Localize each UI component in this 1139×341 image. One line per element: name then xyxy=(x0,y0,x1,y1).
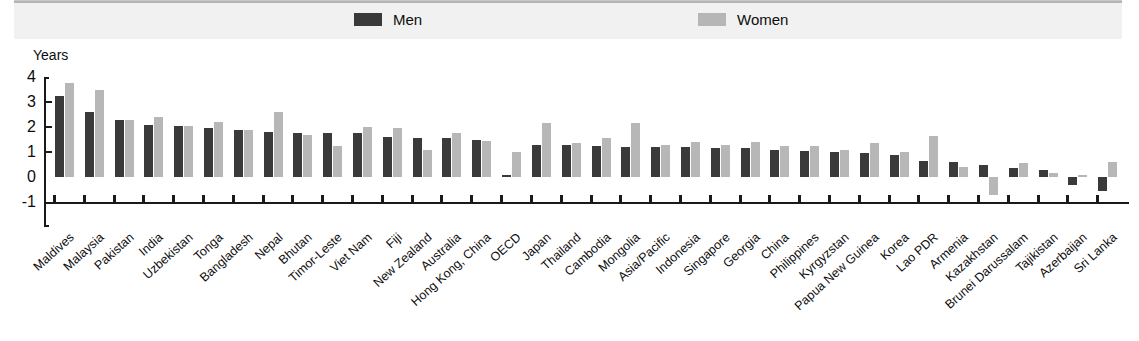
bar-women xyxy=(512,152,521,177)
legend-entry-women: Women xyxy=(698,12,788,27)
bar-men xyxy=(383,137,392,177)
bar-men xyxy=(115,120,124,178)
legend-swatch-women-icon xyxy=(698,13,726,26)
y-axis-tick-label: -1 xyxy=(8,193,36,211)
x-axis-tick xyxy=(977,195,980,204)
y-axis-tick-label: 1 xyxy=(8,143,36,161)
x-axis-tick xyxy=(172,195,175,204)
bar-women xyxy=(1108,162,1117,177)
bar-women xyxy=(65,83,74,177)
x-axis-tick xyxy=(202,195,205,204)
bar-women xyxy=(154,117,163,177)
x-axis-tick xyxy=(1096,195,1099,204)
x-axis-tick xyxy=(947,195,950,204)
bar-women xyxy=(572,143,581,177)
bar-men xyxy=(472,140,481,178)
bar-men xyxy=(1098,177,1107,191)
bar-women xyxy=(184,126,193,177)
bar-men xyxy=(144,125,153,178)
y-axis-tick xyxy=(46,101,52,103)
bar-women xyxy=(95,90,104,178)
bar-men xyxy=(1009,168,1018,177)
bar-men xyxy=(592,146,601,177)
y-axis-tick-label: 2 xyxy=(8,118,36,136)
y-axis-tick-label: 0 xyxy=(8,168,36,186)
x-axis-tick xyxy=(142,195,145,204)
x-axis-tick xyxy=(1007,195,1010,204)
bar-men xyxy=(204,128,213,177)
x-axis-tick xyxy=(768,195,771,204)
bar-men xyxy=(174,126,183,177)
bar-men xyxy=(234,130,243,178)
bar-men xyxy=(85,112,94,177)
bar-women xyxy=(959,167,968,177)
x-axis-tick xyxy=(649,195,652,204)
legend-label-women: Women xyxy=(737,12,788,27)
bar-women xyxy=(542,123,551,177)
bar-women xyxy=(900,152,909,177)
legend-band xyxy=(14,0,1122,39)
x-axis-tick xyxy=(590,195,593,204)
x-axis-tick xyxy=(500,195,503,204)
x-axis-tick xyxy=(560,195,563,204)
x-axis-tick xyxy=(351,195,354,204)
bar-men xyxy=(919,161,928,177)
x-axis-label: OECD xyxy=(488,231,523,264)
x-axis-tick xyxy=(470,195,473,204)
x-axis-tick xyxy=(411,195,414,204)
x-axis-tick xyxy=(321,195,324,204)
x-axis-tick xyxy=(739,195,742,204)
bar-women xyxy=(721,145,730,178)
x-axis-tick xyxy=(113,195,116,204)
y-axis-tick-labels: 43210-1 xyxy=(0,77,36,227)
x-axis-tick xyxy=(888,195,891,204)
bar-men xyxy=(264,132,273,177)
x-axis-tick xyxy=(53,195,56,204)
bar-women xyxy=(870,143,879,177)
bar-women xyxy=(214,122,223,177)
bar-women xyxy=(989,177,998,195)
bar-women xyxy=(393,128,402,177)
x-axis-tick xyxy=(679,195,682,204)
bar-women xyxy=(810,146,819,177)
bar-men xyxy=(979,165,988,178)
x-axis-tick xyxy=(709,195,712,204)
bar-women xyxy=(751,142,760,177)
x-axis-tick xyxy=(619,195,622,204)
bar-men xyxy=(1039,170,1048,178)
x-axis-tick xyxy=(440,195,443,204)
bar-men xyxy=(830,152,839,177)
bar-women xyxy=(125,120,134,178)
legend-label-men: Men xyxy=(393,12,422,27)
x-axis-tick xyxy=(858,195,861,204)
bar-women xyxy=(482,141,491,177)
legend-entry-men: Men xyxy=(354,12,422,27)
y-axis-tick xyxy=(46,126,52,128)
bar-women xyxy=(363,127,372,177)
bar-men xyxy=(442,138,451,177)
x-axis-tick-labels: MaldivesMalaysiaPakistanIndiaUzbekistanT… xyxy=(44,231,1134,341)
bar-women xyxy=(452,133,461,177)
x-axis-label: Fiji xyxy=(384,231,404,251)
y-axis-tick-label: 4 xyxy=(8,68,36,86)
x-axis-tick xyxy=(828,195,831,204)
bar-group xyxy=(44,77,1129,227)
x-axis-tick xyxy=(917,195,920,204)
legend-swatch-men-icon xyxy=(354,13,382,26)
bar-men xyxy=(890,155,899,178)
x-axis-tick xyxy=(262,195,265,204)
bar-women xyxy=(1078,175,1087,178)
bar-women xyxy=(244,130,253,178)
bar-women xyxy=(780,146,789,177)
bar-men xyxy=(1068,177,1077,185)
bar-men xyxy=(800,151,809,177)
chart-figure: Men Women Years 43210-1 MaldivesMalaysia… xyxy=(0,0,1139,341)
plot-area xyxy=(44,77,1129,227)
x-axis-tick xyxy=(1066,195,1069,204)
bar-men xyxy=(413,138,422,177)
x-axis-tick xyxy=(798,195,801,204)
bar-men xyxy=(562,145,571,178)
bar-men xyxy=(651,147,660,177)
x-axis-tick xyxy=(291,195,294,204)
bar-women xyxy=(1019,163,1028,177)
